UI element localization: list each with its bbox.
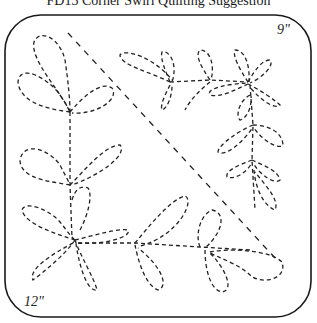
height-label: 12" (24, 294, 44, 309)
leaf (227, 160, 252, 178)
bottom-stem (78, 243, 250, 250)
leaf (252, 160, 280, 181)
left-stem (70, 112, 72, 238)
leaf (75, 240, 97, 290)
leaf (18, 73, 70, 112)
top-stem (170, 80, 248, 82)
leaf (185, 82, 210, 110)
leaf (20, 149, 70, 185)
leaf (162, 85, 172, 110)
leaf-vine-motif (18, 36, 283, 292)
leaf (32, 240, 75, 280)
leaf (248, 84, 280, 106)
leaf (234, 50, 249, 82)
leaf (135, 245, 163, 290)
leaf (75, 230, 128, 244)
width-label: 9" (277, 22, 290, 37)
leaf (72, 187, 90, 230)
leaf (198, 50, 212, 80)
leaf (209, 83, 248, 96)
leaf (205, 250, 228, 292)
leaf (253, 125, 283, 146)
leaf (135, 196, 188, 246)
leaf (238, 95, 251, 120)
diagonal-guide-line (68, 33, 275, 258)
leaf (162, 52, 175, 82)
leaf (70, 145, 121, 185)
leaf (198, 210, 221, 248)
quilting-diagram: 9" 12" (0, 0, 317, 323)
leaf (248, 60, 271, 83)
leaf (70, 86, 114, 113)
leaf (34, 36, 70, 112)
leaf (22, 206, 75, 240)
leaf (218, 125, 253, 153)
